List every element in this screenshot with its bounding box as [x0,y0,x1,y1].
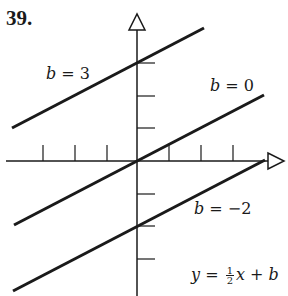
equation: y = 12x + b [191,265,279,285]
label-b-0: b = 0 [210,76,254,95]
x-ticks [43,145,233,161]
label-b-minus-2: b = −2 [194,199,251,218]
y-axis-arrow-icon [129,14,145,30]
x-axis-arrow-icon [268,153,284,169]
problem-number: 39. [6,6,32,31]
line-b-3 [12,28,204,128]
graph [0,0,288,296]
label-b-3: b = 3 [46,64,90,83]
fraction-one-half: 12 [226,266,234,285]
